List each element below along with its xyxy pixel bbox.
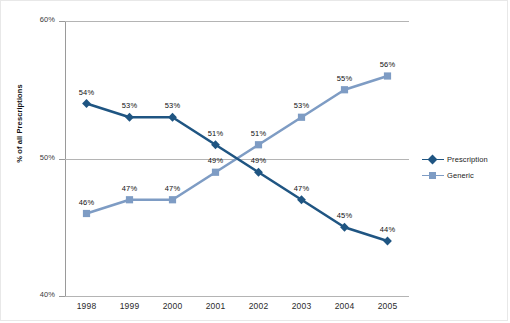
x-tick-label-2003: 2003 bbox=[280, 301, 324, 311]
y-tick-label-40: 40% bbox=[15, 290, 55, 299]
data-point-generic-2004[interactable] bbox=[341, 86, 348, 93]
data-point-prescription-1999[interactable] bbox=[125, 113, 134, 122]
series-line-prescription bbox=[87, 104, 388, 242]
y-tick-mark-40 bbox=[59, 296, 65, 297]
data-label-prescription-1998: 54% bbox=[69, 88, 105, 97]
series-svg bbox=[65, 21, 409, 296]
data-point-prescription-1998[interactable] bbox=[82, 99, 91, 108]
data-label-generic-2003: 53% bbox=[284, 101, 320, 110]
data-point-generic-1998[interactable] bbox=[83, 210, 90, 217]
x-tick-label-2004: 2004 bbox=[323, 301, 367, 311]
data-label-generic-1998: 46% bbox=[69, 198, 105, 207]
data-point-generic-2002[interactable] bbox=[255, 141, 262, 148]
data-label-generic-1999: 47% bbox=[112, 184, 148, 193]
chart-legend: Prescription Generic bbox=[422, 151, 504, 183]
data-label-generic-2004: 55% bbox=[327, 74, 363, 83]
data-label-prescription-2003: 47% bbox=[284, 184, 320, 193]
legend-item-prescription[interactable]: Prescription bbox=[422, 151, 504, 167]
line-chart: 60% 50% 40% % of all Prescriptions 54%53… bbox=[0, 0, 508, 321]
data-point-generic-2005[interactable] bbox=[384, 72, 391, 79]
data-label-generic-2005: 56% bbox=[370, 60, 406, 69]
data-point-generic-2001[interactable] bbox=[212, 169, 219, 176]
data-point-generic-1999[interactable] bbox=[126, 196, 133, 203]
x-tick-label-1999: 1999 bbox=[108, 301, 152, 311]
data-label-generic-2001: 49% bbox=[198, 156, 234, 165]
legend-item-generic[interactable]: Generic bbox=[422, 167, 504, 183]
y-axis-title: % of all Prescriptions bbox=[15, 69, 24, 179]
data-label-prescription-2005: 44% bbox=[370, 225, 406, 234]
data-label-prescription-2004: 45% bbox=[327, 211, 363, 220]
data-point-generic-2000[interactable] bbox=[169, 196, 176, 203]
plot-area: 54%53%53%51%49%47%45%44%46%47%47%49%51%5… bbox=[65, 21, 409, 296]
x-tick-label-2002: 2002 bbox=[237, 301, 281, 311]
x-tick-label-2005: 2005 bbox=[366, 301, 410, 311]
legend-label-generic: Generic bbox=[447, 171, 474, 180]
data-point-prescription-2005[interactable] bbox=[383, 237, 392, 246]
legend-label-prescription: Prescription bbox=[447, 155, 488, 164]
data-label-prescription-2002: 49% bbox=[241, 156, 277, 165]
data-label-prescription-1999: 53% bbox=[112, 101, 148, 110]
data-label-generic-2002: 51% bbox=[241, 129, 277, 138]
x-tick-label-2001: 2001 bbox=[194, 301, 238, 311]
data-label-generic-2000: 47% bbox=[155, 184, 191, 193]
legend-marker-square-icon bbox=[422, 170, 444, 180]
y-tick-label-60: 60% bbox=[15, 15, 55, 24]
series-line-generic bbox=[87, 76, 388, 214]
data-label-prescription-2000: 53% bbox=[155, 101, 191, 110]
x-tick-label-1998: 1998 bbox=[65, 301, 109, 311]
x-tick-label-2000: 2000 bbox=[151, 301, 195, 311]
data-point-generic-2003[interactable] bbox=[298, 114, 305, 121]
data-label-prescription-2001: 51% bbox=[198, 129, 234, 138]
legend-marker-diamond-icon bbox=[422, 154, 444, 164]
gridline-40 bbox=[65, 296, 409, 297]
